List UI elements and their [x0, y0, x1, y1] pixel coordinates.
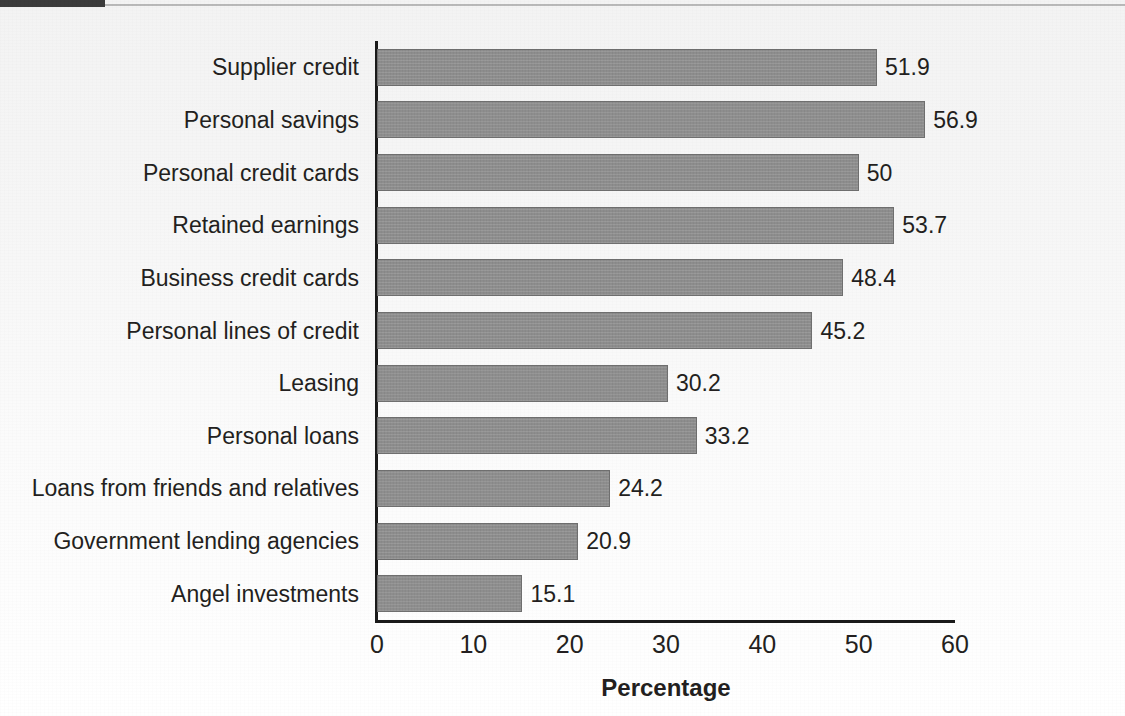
category-label: Personal savings [0, 109, 359, 132]
x-tick-label: 40 [722, 632, 802, 657]
category-label: Supplier credit [0, 56, 359, 79]
bar [377, 49, 877, 86]
category-label: Leasing [0, 372, 359, 395]
chart-figure: Percentage Supplier credit51.9Personal s… [0, 0, 1125, 716]
x-tick-label: 60 [915, 632, 995, 657]
category-label: Personal loans [0, 425, 359, 448]
category-label: Loans from friends and relatives [0, 477, 359, 500]
bar-value-label: 20.9 [586, 530, 631, 553]
bar-value-label: 24.2 [618, 477, 663, 500]
category-label: Retained earnings [0, 214, 359, 237]
bar-value-label: 50 [867, 162, 893, 185]
x-tick-label: 0 [337, 632, 417, 657]
bar-value-label: 48.4 [851, 267, 896, 290]
bar-value-label: 45.2 [820, 320, 865, 343]
bar-value-label: 15.1 [530, 583, 575, 606]
category-label: Business credit cards [0, 267, 359, 290]
bar [377, 312, 812, 349]
x-tick-label: 10 [433, 632, 513, 657]
bar [377, 575, 522, 612]
x-tick-label: 30 [626, 632, 706, 657]
x-tick-label: 50 [819, 632, 899, 657]
bar-value-label: 56.9 [933, 109, 978, 132]
bar [377, 259, 843, 296]
bar [377, 207, 894, 244]
bar-value-label: 30.2 [676, 372, 721, 395]
x-axis-title: Percentage [337, 676, 995, 700]
category-label: Personal credit cards [0, 162, 359, 185]
x-axis-line [375, 620, 955, 623]
category-label: Angel investments [0, 583, 359, 606]
bar [377, 417, 697, 454]
bar [377, 470, 610, 507]
bar [377, 101, 925, 138]
bar-value-label: 53.7 [902, 214, 947, 237]
bar-chart-plot-area: Percentage Supplier credit51.9Personal s… [0, 0, 1125, 716]
category-label: Government lending agencies [0, 530, 359, 553]
x-tick-label: 20 [530, 632, 610, 657]
bar [377, 154, 859, 191]
bar-value-label: 51.9 [885, 56, 930, 79]
bar [377, 523, 578, 560]
bar-value-label: 33.2 [705, 425, 750, 448]
category-label: Personal lines of credit [0, 320, 359, 343]
bar [377, 365, 668, 402]
